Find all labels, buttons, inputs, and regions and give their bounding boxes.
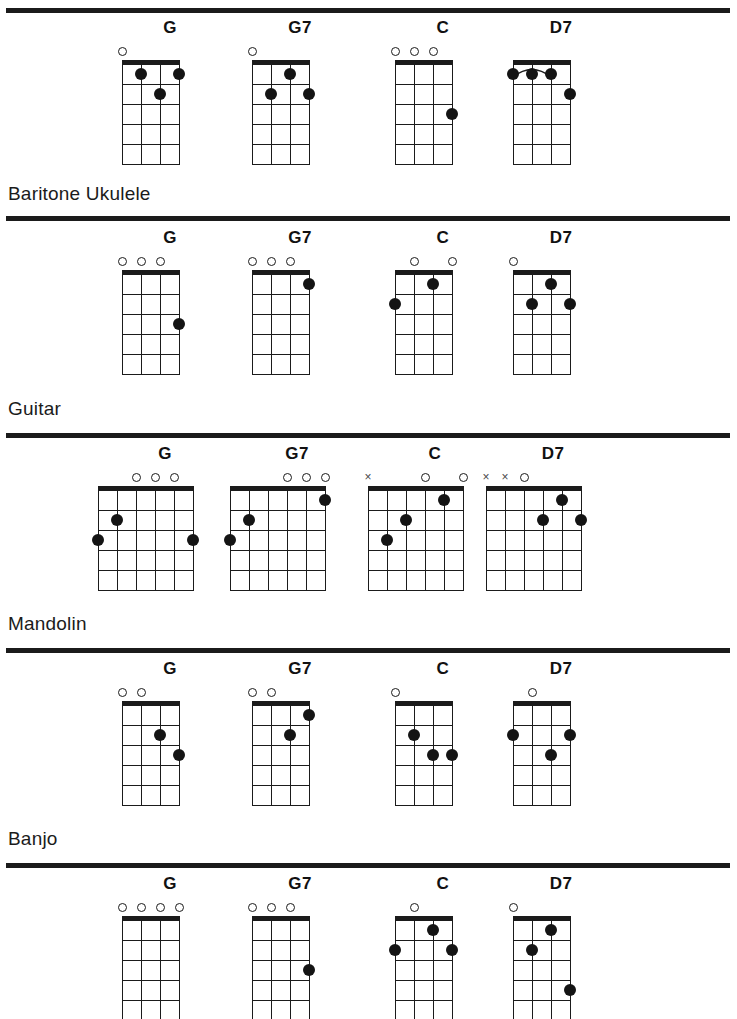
open-string-icon [459,473,468,482]
fret-cell [434,65,453,85]
fret-cell [142,105,161,125]
string-markers [95,685,245,701]
fretboard [395,916,454,1019]
fret-cell [514,921,533,941]
chord-name: G7 [225,228,375,248]
fret-cell [253,1001,272,1019]
open-string-icon [118,257,127,266]
chord-mandolin-g7: G7 [225,659,375,809]
open-string-icon [391,47,400,56]
fret-grid [252,274,310,375]
fret-cell [533,786,552,806]
fret-cell [552,786,571,806]
fret-cell [369,551,388,571]
fret-cell [161,1001,180,1019]
chord-name: G7 [225,874,375,894]
fret-grid [513,274,571,375]
fret-cell [288,571,307,591]
fret-cell [434,766,453,786]
fret-cell [407,491,426,511]
fret-grid [122,705,180,806]
fret-cell [161,105,180,125]
fret-cell [291,355,310,375]
fret-cell [426,551,445,571]
chord-row-guitar: GG7C×D7×× [0,444,737,594]
fret-cell [434,1001,453,1019]
fret-cell [161,355,180,375]
fret-cell [415,706,434,726]
fret-cell [514,85,533,105]
finger-dot [400,514,412,526]
open-string-icon [283,473,292,482]
fret-cell [156,531,175,551]
fret-cell [434,961,453,981]
fret-cell [142,355,161,375]
fret-cell [506,531,525,551]
fret-cell [487,511,506,531]
fret-cell [156,491,175,511]
fret-cell [250,551,269,571]
fret-cell [434,786,453,806]
chord-name: G [95,228,245,248]
chord-row-baritone-ukulele: GG7CD7 [0,228,737,378]
fret-cell [142,145,161,165]
fret-cell [307,551,326,571]
chord-row-banjo: GG7CD7 [0,874,737,1019]
fret-cell [388,551,407,571]
fret-cell [307,571,326,591]
fret-cell [250,571,269,591]
finger-dot [526,68,538,80]
fret-cell [118,531,137,551]
fret-cell [137,551,156,571]
chord-diagram [486,685,636,805]
fret-cell [396,981,415,1001]
fret-cell [253,941,272,961]
chord-name: D7 [486,659,636,679]
finger-dot [526,944,538,956]
fret-cell [445,551,464,571]
fret-cell [563,551,582,571]
fret-cell [123,961,142,981]
section-rule-guitar [6,433,730,438]
fret-cell [407,571,426,591]
fret-cell [415,941,434,961]
string-markers [225,254,375,270]
fret-cell [434,295,453,315]
fret-cell [552,1001,571,1019]
fret-cell [514,335,533,355]
fret-cell [123,145,142,165]
chord-mandolin-g: G [95,659,245,809]
chord-chart-page: GG7CD7Baritone UkuleleGG7CD7GuitarGG7C×D… [0,0,737,1019]
fret-cell [288,511,307,531]
fret-cell [506,551,525,571]
section-rule-baritone-ukulele [6,216,730,221]
fret-cell [426,511,445,531]
chord-name: D7 [486,874,636,894]
fret-cell [415,335,434,355]
fret-cell [123,105,142,125]
chord-diagram [225,44,375,164]
open-string-icon [175,903,184,912]
string-markers [95,900,245,916]
fret-cell [123,355,142,375]
fret-cell [118,491,137,511]
fret-cell [563,571,582,591]
fret-cell [142,706,161,726]
fretboard [252,270,311,376]
fret-cell [396,786,415,806]
fret-cell [231,491,250,511]
fret-cell [269,531,288,551]
fret-cell [434,125,453,145]
chord-name: G [95,874,245,894]
fret-cell [272,706,291,726]
chord-baritone-ukulele-g7: G7 [225,228,375,378]
open-string-icon [248,47,257,56]
fret-cell [388,491,407,511]
string-markers [225,685,375,701]
open-string-icon [137,903,146,912]
fret-cell [533,335,552,355]
finger-dot [427,924,439,936]
fret-cell [142,315,161,335]
fret-cell [291,315,310,335]
finger-dot [187,534,199,546]
